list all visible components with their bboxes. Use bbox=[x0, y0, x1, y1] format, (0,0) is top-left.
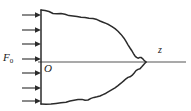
load-arrow-5 bbox=[22, 70, 41, 76]
load-arrow-4 bbox=[22, 56, 41, 62]
z-axis-label: z bbox=[158, 45, 162, 55]
force-label: F0 bbox=[3, 52, 13, 63]
origin-label: O bbox=[44, 63, 52, 74]
load-arrow-6 bbox=[22, 85, 41, 91]
load-arrow-1 bbox=[22, 12, 41, 18]
force-subscript: 0 bbox=[10, 57, 14, 65]
figure-container: F0 O z bbox=[0, 0, 191, 111]
body-lower-outline bbox=[41, 62, 146, 104]
load-arrow-group bbox=[22, 12, 41, 104]
load-arrow-3 bbox=[22, 41, 41, 47]
load-arrow-7 bbox=[22, 98, 41, 104]
figure-canvas bbox=[0, 0, 191, 111]
force-symbol: F bbox=[3, 51, 10, 63]
load-arrow-2 bbox=[22, 27, 41, 33]
body-upper-outline bbox=[41, 10, 146, 62]
